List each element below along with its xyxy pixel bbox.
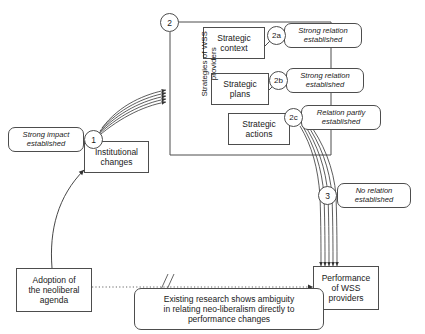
marker-2[interactable]: 2 [160,13,179,32]
node-performance-label: Performance of WSS providers [319,272,374,304]
node-relation-2a[interactable]: Strong relation established [284,23,362,48]
marker-2a[interactable]: 2a [267,26,286,45]
marker-2a-label: 2a [272,31,281,40]
node-strategic-actions-label: Strategic actions [239,118,279,140]
node-relation-2b[interactable]: Strong relation established [286,68,364,93]
node-relation-2c-label: Relation partly established [314,108,369,128]
marker-2b-label: 2b [274,76,283,85]
marker-2c[interactable]: 2c [284,108,303,127]
group-vertical-label-text: Strategies of WSS providers [200,31,218,96]
node-relation-2c[interactable]: Relation partly established [301,105,381,130]
diagram-canvas: Strategies of WSS providers Strong impac… [0,0,425,334]
node-strategic-plans-label: Strategic plans [220,78,260,100]
node-strong-impact-established-label: Strong impact established [20,130,73,150]
node-strategic-actions[interactable]: Strategic actions [228,113,290,145]
marker-1[interactable]: 1 [84,130,103,149]
node-ambiguity-note[interactable]: Existing research shows ambiguity in rel… [134,288,324,330]
node-relation-3-label: No relation established [352,186,396,206]
marker-3-label: 3 [325,191,330,201]
node-adoption-of-neoliberal-agenda[interactable]: Adoption of the neoliberal agenda [16,268,92,312]
node-relation-2a-label: Strong relation established [295,26,350,46]
marker-2b[interactable]: 2b [269,71,288,90]
node-relation-3[interactable]: No relation established [337,183,411,208]
node-ambiguity-note-label: Existing research shows ambiguity in rel… [161,293,298,325]
node-strategic-plans[interactable]: Strategic plans [211,73,269,105]
arrow-bundle-institutional-to-strategies [94,90,166,140]
node-relation-2b-label: Strong relation established [297,71,352,91]
marker-3[interactable]: 3 [318,186,337,205]
node-strong-impact-established[interactable]: Strong impact established [8,127,84,152]
arrow-adoption-to-institutional [51,170,84,268]
node-institutional-changes-label: Institutional changes [92,146,141,168]
group-vertical-label: Strategies of WSS providers [191,9,219,119]
marker-2c-label: 2c [289,113,297,122]
marker-2-label: 2 [167,18,172,28]
marker-1-label: 1 [91,135,96,145]
node-strategic-context-label: Strategic context [214,32,254,54]
node-adoption-label: Adoption of the neoliberal agenda [25,274,82,306]
